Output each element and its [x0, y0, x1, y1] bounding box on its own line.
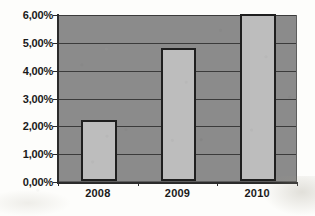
- x-axis-tick-mark: [217, 182, 218, 186]
- x-axis-line: [57, 182, 298, 184]
- y-axis-tick-mark: [53, 43, 57, 44]
- y-axis-tick-mark: [53, 15, 57, 16]
- x-axis-tick-labels: 200820092010: [58, 188, 297, 210]
- x-axis-tick-mark: [297, 182, 298, 186]
- y-axis-tick-mark: [53, 71, 57, 72]
- x-axis-tick-label-2010: 2010: [245, 188, 270, 199]
- y-axis-tick-label: 5,00%: [23, 37, 53, 48]
- bar-chart-figure: 0,00%1,00%2,00%3,00%4,00%5,00%6,00% 2008…: [0, 0, 315, 216]
- y-axis-tick-labels: 0,00%1,00%2,00%3,00%4,00%5,00%6,00%: [0, 0, 53, 216]
- x-axis-tick-mark: [58, 182, 59, 186]
- y-axis-tick-label: 1,00%: [23, 149, 53, 160]
- bar-2010: [240, 14, 276, 181]
- plot-area: [58, 15, 297, 182]
- bar-2009: [161, 48, 197, 181]
- bar-2008: [81, 120, 117, 181]
- y-axis-tick-label: 2,00%: [23, 121, 53, 132]
- y-axis-tick-label: 6,00%: [23, 10, 53, 21]
- y-axis-tick-mark: [53, 154, 57, 155]
- x-axis-tick-label-2008: 2008: [85, 188, 110, 199]
- y-axis-tick-label: 4,00%: [23, 65, 53, 76]
- y-axis-line: [57, 14, 59, 184]
- y-axis-tick-label: 0,00%: [23, 177, 53, 188]
- y-axis-tick-label: 3,00%: [23, 93, 53, 104]
- x-axis-tick-mark: [138, 182, 139, 186]
- x-axis-tick-label-2009: 2009: [165, 188, 190, 199]
- y-axis-tick-mark: [53, 126, 57, 127]
- y-axis-tick-mark: [53, 182, 57, 183]
- y-axis-tick-mark: [53, 99, 57, 100]
